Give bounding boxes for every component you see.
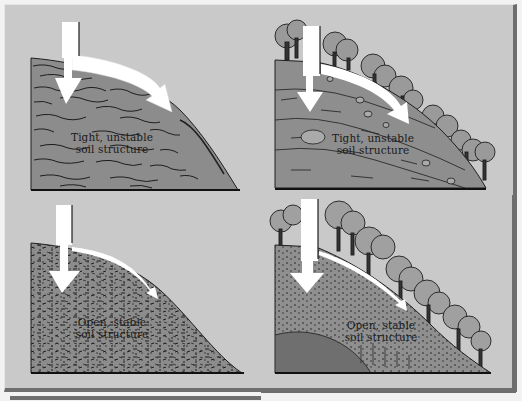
rock [327, 77, 333, 82]
rock [356, 97, 364, 103]
label-line-2: soil structure [62, 328, 162, 340]
soil-label-bottom-left: Open, stable soil structure [62, 316, 162, 340]
bare-slope-tight-soil-illustration [0, 0, 261, 200]
soil-label-top-right: Tight, unstable soil structure [323, 132, 423, 156]
rock [364, 111, 372, 117]
rock [422, 160, 430, 166]
label-line-1: Tight, unstable [323, 132, 423, 144]
panel-bottom-right-forest-open-soil: Open, stable soil structure [261, 195, 522, 401]
rock [301, 130, 325, 144]
panel-top-left-bare-tight-soil: Tight, unstable soil structure [0, 0, 261, 200]
soil-label-bottom-right: Open, stable soil structure [331, 319, 431, 343]
rock [447, 178, 455, 184]
label-line-1: Tight, unstable [62, 131, 162, 143]
panel-bottom-left-bare-open-soil: Open, stable soil structure [0, 195, 261, 401]
forest-slope-open-soil-illustration [261, 195, 522, 401]
rock [383, 123, 389, 128]
tree-icon [270, 205, 303, 247]
label-line-1: Open, stable [62, 316, 162, 328]
tree-icon [275, 20, 307, 60]
panel-top-right-forest-tight-soil: Tight, unstable soil structure [261, 0, 522, 200]
label-line-1: Open, stable [331, 319, 431, 331]
label-line-2: soil structure [323, 144, 423, 156]
label-line-2: soil structure [62, 143, 162, 155]
bare-slope-open-soil-illustration [0, 195, 261, 401]
label-line-2: soil structure [331, 331, 431, 343]
forest-slope-tight-soil-illustration [261, 0, 522, 200]
soil-label-top-left: Tight, unstable soil structure [62, 131, 162, 155]
